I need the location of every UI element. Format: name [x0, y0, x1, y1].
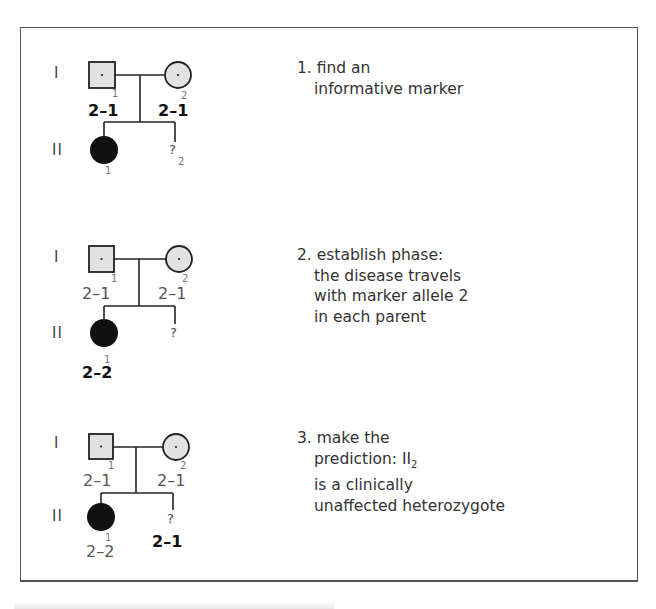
generation-label-I: I — [54, 248, 59, 266]
mother-index: 2 — [181, 90, 187, 101]
panel-1-find-marker: I II 1 2 2–1 2–1 1 ? 2 1. find an inform… — [0, 0, 656, 190]
generation-label-II: II — [52, 507, 63, 525]
panel-3-make-prediction: I II 1 2 2–1 2–1 1 2–2 ? 2–1 3. make the… — [0, 372, 656, 562]
daughter-genotype: 2–2 — [86, 542, 114, 561]
step-1-text: 1. find an informative marker — [297, 58, 463, 99]
affected-daughter-icon — [90, 319, 118, 347]
father-index: 1 — [111, 273, 117, 284]
panel-2-establish-phase: I II 1 2 2–1 2–1 1 2–2 ? 2. establish ph… — [0, 184, 656, 374]
generation-label-I: I — [54, 64, 59, 82]
father-index: 1 — [108, 460, 114, 471]
figure-caption-cropped — [14, 601, 334, 609]
mother-genotype: 2–1 — [158, 284, 186, 303]
father-genotype: 2–1 — [88, 101, 118, 120]
mother-genotype: 2–1 — [157, 471, 185, 490]
affected-daughter-icon — [87, 503, 115, 531]
unknown-child-icon: ? — [169, 142, 176, 157]
generation-label-II: II — [52, 141, 63, 159]
generation-label-I: I — [54, 434, 59, 452]
generation-label-II: II — [52, 324, 63, 342]
father-genotype: 2–1 — [82, 284, 110, 303]
mother-index: 2 — [182, 273, 188, 284]
unknown-child-icon: ? — [167, 511, 174, 526]
mother-index: 2 — [180, 460, 186, 471]
affected-daughter-icon — [90, 136, 118, 164]
unknown-child-icon: ? — [170, 325, 177, 340]
step-3-text: 3. make the prediction: II2 is a clinica… — [297, 428, 505, 516]
daughter-index: 1 — [105, 165, 111, 176]
mother-genotype: 2–1 — [158, 101, 188, 120]
father-genotype: 2–1 — [83, 471, 111, 490]
step-2-text: 2. establish phase: the disease travels … — [297, 245, 468, 327]
unknown-child-index: 2 — [178, 156, 184, 167]
unknown-child-genotype: 2–1 — [152, 532, 182, 551]
father-index: 1 — [112, 88, 118, 99]
